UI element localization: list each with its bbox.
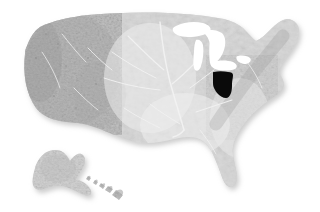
map-container: United States shaded relief map with Ohi… (0, 0, 320, 212)
us-relief-map (0, 0, 320, 212)
